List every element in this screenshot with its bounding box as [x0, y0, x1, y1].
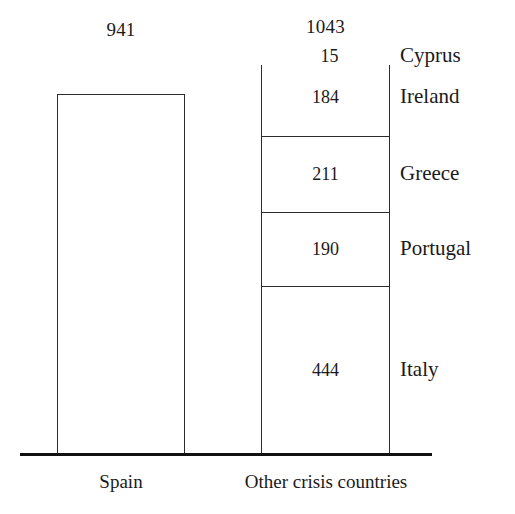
segment-name-ireland: Ireland: [400, 86, 459, 107]
segment-name-italy: Italy: [400, 359, 438, 380]
segment-name-portugal: Portugal: [400, 238, 471, 259]
segment-name-greece: Greece: [400, 163, 459, 184]
bar-spain: [57, 94, 185, 455]
category-label-spain: Spain: [57, 472, 185, 491]
segment-name-cyprus: Cyprus: [400, 45, 461, 66]
total-label-other-crisis-countries: 1043: [261, 17, 390, 36]
segment-value-ireland: 184: [261, 88, 390, 106]
total-label-spain: 941: [57, 20, 185, 39]
category-label-other-crisis-countries: Other crisis countries: [206, 472, 446, 491]
segment-value-cyprus: 15: [261, 47, 398, 65]
segment-value-portugal: 190: [261, 240, 390, 258]
axis-baseline: [20, 453, 432, 456]
segment-value-greece: 211: [261, 165, 390, 183]
stacked-bar-chart: 941 1043 15 184 211 190 444 Cyprus Irela…: [0, 0, 515, 514]
segment-value-italy: 444: [261, 361, 390, 379]
